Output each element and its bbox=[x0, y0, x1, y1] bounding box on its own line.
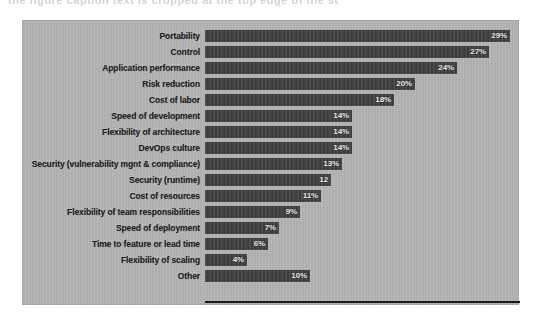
bar: 13% bbox=[205, 158, 342, 170]
bar-value-label: 11% bbox=[303, 192, 318, 200]
category-label: Flexibility of team responsibilities bbox=[22, 208, 205, 217]
cropped-caption-text: the figure caption text is cropped at th… bbox=[8, 0, 338, 7]
chart-row: Control 27% bbox=[22, 44, 519, 60]
bar-value-label: 29% bbox=[491, 32, 507, 40]
cropped-caption-glyphs: the figure caption text is cropped at th… bbox=[8, 0, 338, 6]
bar-track: 12 bbox=[205, 172, 519, 188]
chart-row: Flexibility of scaling 4% bbox=[22, 252, 519, 268]
category-label: Flexibility of scaling bbox=[22, 256, 205, 265]
bar: 14% bbox=[205, 126, 352, 138]
chart-row: Security (runtime) 12 bbox=[22, 172, 519, 188]
chart-row: DevOps culture 14% bbox=[22, 140, 519, 156]
chart-row: Time to feature or lead time 6% bbox=[22, 236, 519, 252]
bar-value-label: 18% bbox=[375, 96, 391, 104]
bar-track: 14% bbox=[205, 108, 519, 124]
bar: 7% bbox=[205, 222, 279, 234]
chart-row: Application performance 24% bbox=[22, 60, 519, 76]
bar-value-label: 27% bbox=[470, 48, 486, 56]
bar: 20% bbox=[205, 78, 415, 90]
chart-figure-panel: Portability 29% Control 27% Application … bbox=[22, 20, 519, 305]
bar: 24% bbox=[205, 62, 457, 74]
category-label: Cost of resources bbox=[22, 192, 205, 201]
category-label: Time to feature or lead time bbox=[22, 240, 205, 249]
bar-track: 18% bbox=[205, 92, 519, 108]
bar-value-label: 20% bbox=[396, 80, 412, 88]
bar-track: 9% bbox=[205, 204, 519, 220]
bar: 12 bbox=[205, 174, 331, 186]
chart-row: Speed of development 14% bbox=[22, 108, 519, 124]
bar-value-label: 6% bbox=[254, 240, 265, 248]
bar-chart-plot-area: Portability 29% Control 27% Application … bbox=[22, 28, 519, 305]
bar: 18% bbox=[205, 94, 394, 106]
bar-value-label: 9% bbox=[286, 208, 297, 216]
bar-value-label: 14% bbox=[333, 144, 349, 152]
bar: 11% bbox=[205, 190, 321, 202]
category-label: Portability bbox=[22, 32, 205, 41]
bar: 14% bbox=[205, 142, 352, 154]
category-label: Control bbox=[22, 48, 205, 57]
bar-track: 11% bbox=[205, 188, 519, 204]
bar-track: 27% bbox=[205, 44, 519, 60]
chart-row: Security (vulnerability mgnt & complianc… bbox=[22, 156, 519, 172]
bar-track: 7% bbox=[205, 220, 519, 236]
bar: 9% bbox=[205, 206, 300, 218]
bar: 10% bbox=[205, 270, 310, 282]
category-label: Security (runtime) bbox=[22, 176, 205, 185]
bar-track: 20% bbox=[205, 76, 519, 92]
bar-track: 14% bbox=[205, 124, 519, 140]
bar-value-label: 14% bbox=[333, 128, 349, 136]
bar: 4% bbox=[205, 254, 247, 266]
bar-value-label: 10% bbox=[291, 272, 307, 280]
category-label: Application performance bbox=[22, 64, 205, 73]
bar-track: 24% bbox=[205, 60, 519, 76]
category-label: DevOps culture bbox=[22, 144, 205, 153]
bar: 27% bbox=[205, 46, 489, 58]
bar-track: 13% bbox=[205, 156, 519, 172]
bar-value-label: 12 bbox=[319, 176, 328, 184]
bar-value-label: 13% bbox=[323, 160, 339, 168]
bar-track: 29% bbox=[205, 28, 519, 44]
chart-row: Cost of labor 18% bbox=[22, 92, 519, 108]
x-axis-baseline bbox=[205, 301, 520, 303]
bar-track: 14% bbox=[205, 140, 519, 156]
chart-row: Flexibility of architecture 14% bbox=[22, 124, 519, 140]
category-label: Speed of development bbox=[22, 112, 205, 121]
chart-row: Other 10% bbox=[22, 268, 519, 284]
category-label: Security (vulnerability mgnt & complianc… bbox=[22, 160, 205, 169]
chart-row: Risk reduction 20% bbox=[22, 76, 519, 92]
category-label: Speed of deployment bbox=[22, 224, 205, 233]
category-label: Cost of labor bbox=[22, 96, 205, 105]
chart-row: Speed of deployment 7% bbox=[22, 220, 519, 236]
bar: 6% bbox=[205, 238, 268, 250]
bar-value-label: 7% bbox=[265, 224, 276, 232]
bar-track: 10% bbox=[205, 268, 519, 284]
category-label: Flexibility of architecture bbox=[22, 128, 205, 137]
bar: 29% bbox=[205, 30, 510, 42]
bar-value-label: 14% bbox=[333, 112, 349, 120]
chart-row: Portability 29% bbox=[22, 28, 519, 44]
bar-track: 6% bbox=[205, 236, 519, 252]
bar-track: 4% bbox=[205, 252, 519, 268]
chart-row: Cost of resources 11% bbox=[22, 188, 519, 204]
category-label: Risk reduction bbox=[22, 80, 205, 89]
bar: 14% bbox=[205, 110, 352, 122]
bar-value-label: 24% bbox=[438, 64, 454, 72]
chart-row: Flexibility of team responsibilities 9% bbox=[22, 204, 519, 220]
category-label: Other bbox=[22, 272, 205, 281]
bar-value-label: 4% bbox=[233, 256, 244, 264]
